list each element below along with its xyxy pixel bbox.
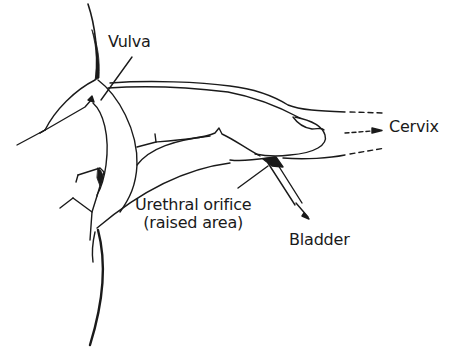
anatomy-diagram: Vulva Cervix Urethral orifice (raised ar… xyxy=(0,0,453,358)
label-vulva: Vulva xyxy=(108,33,151,51)
label-urethral-orifice-line2: (raised area) xyxy=(135,214,251,232)
label-urethral-orifice: Urethral orifice (raised area) xyxy=(135,196,251,232)
label-bladder: Bladder xyxy=(289,231,350,249)
label-urethral-orifice-line1: Urethral orifice xyxy=(135,196,251,214)
label-cervix: Cervix xyxy=(389,118,439,136)
anatomy-drawing xyxy=(0,0,453,358)
